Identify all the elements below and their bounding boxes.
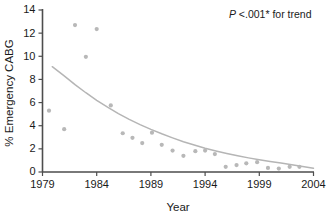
y-axis-title: % Emergency CABG: [3, 39, 15, 146]
data-point: [193, 149, 197, 153]
y-tick-label: 6: [29, 96, 35, 108]
trend-curve: [52, 67, 313, 168]
y-axis-ticks: 02468101214: [23, 3, 42, 177]
data-point: [73, 23, 77, 27]
data-point: [150, 131, 154, 135]
p-symbol: P: [229, 8, 236, 20]
data-point: [266, 166, 270, 170]
figure-emergency-cabg-trend: 02468101214 197919841989199419992004 Yea…: [0, 0, 328, 218]
y-tick-label: 10: [23, 50, 35, 62]
x-tick-label: 1994: [193, 178, 217, 190]
data-point: [47, 109, 51, 113]
x-axis-ticks: 197919841989199419992004: [30, 172, 325, 190]
y-tick-label: 14: [23, 3, 35, 15]
x-axis-title: Year: [166, 201, 189, 213]
y-tick-label: 8: [29, 73, 35, 85]
data-point: [140, 141, 144, 145]
x-tick-label: 1979: [30, 178, 54, 190]
x-axis: 197919841989199419992004: [30, 172, 325, 190]
data-point: [297, 165, 301, 169]
data-point: [84, 55, 88, 59]
scatter-plot: 02468101214 197919841989199419992004 Yea…: [0, 0, 328, 218]
data-point: [203, 148, 207, 152]
data-point: [277, 166, 281, 170]
p-value-text: <.001* for trend: [236, 8, 312, 20]
p-value-annotation: P <.001* for trend: [229, 8, 312, 20]
data-point: [244, 161, 248, 165]
y-axis: 02468101214: [23, 3, 42, 177]
y-tick-label: 0: [29, 165, 35, 177]
y-tick-label: 4: [29, 119, 35, 131]
data-point: [255, 160, 259, 164]
data-point: [160, 143, 164, 147]
data-point: [170, 148, 174, 152]
data-point: [95, 27, 99, 31]
data-point: [224, 165, 228, 169]
data-point: [130, 136, 134, 140]
data-point: [181, 154, 185, 158]
y-tick-label: 12: [23, 27, 35, 39]
x-tick-label: 1984: [84, 178, 108, 190]
y-tick-label: 2: [29, 142, 35, 154]
data-point: [121, 131, 125, 135]
data-point: [62, 127, 66, 131]
x-tick-label: 2004: [301, 178, 325, 190]
data-points: [47, 23, 302, 171]
data-point: [109, 103, 113, 107]
data-point: [234, 163, 238, 167]
data-point: [213, 152, 217, 156]
x-tick-label: 1989: [139, 178, 163, 190]
data-point: [288, 165, 292, 169]
x-tick-label: 1999: [247, 178, 271, 190]
